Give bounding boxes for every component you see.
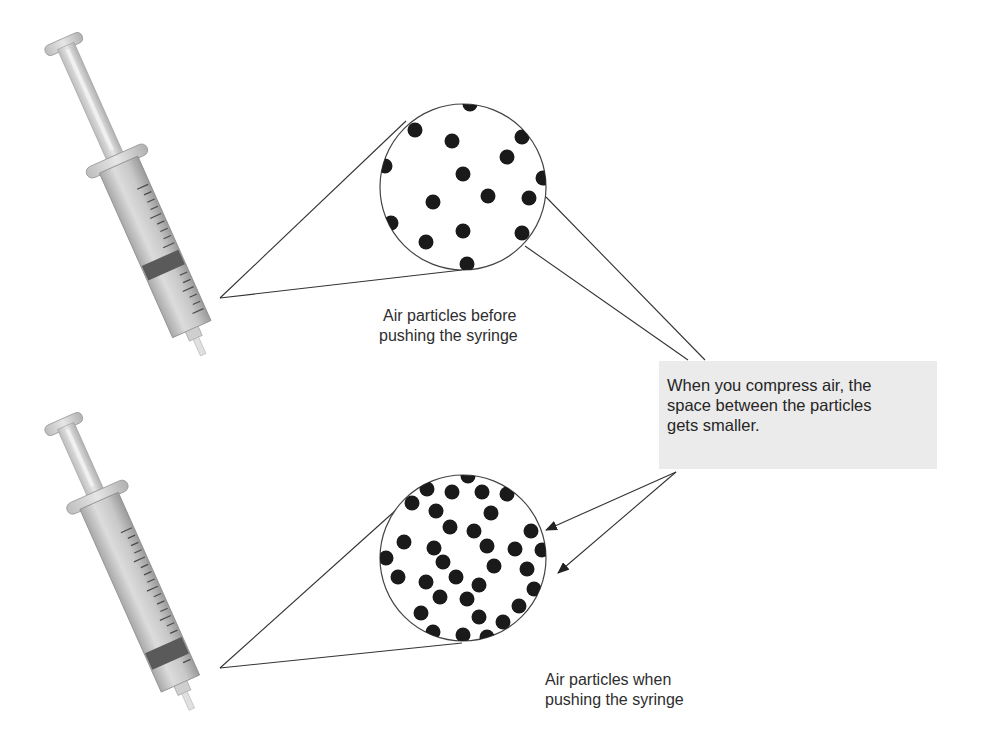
air-particle <box>480 539 495 554</box>
air-particle <box>481 189 496 204</box>
air-particle <box>378 159 393 174</box>
air-particle <box>508 542 523 557</box>
air-particle <box>515 130 530 145</box>
explanation-callout: When you compress air, the space between… <box>659 361 937 469</box>
air-particle <box>419 575 434 590</box>
air-particle <box>472 610 487 625</box>
air-particle <box>429 504 444 519</box>
caption-before-line-1: Air particles before <box>383 306 518 326</box>
air-particle <box>515 226 530 241</box>
air-particle <box>391 570 406 585</box>
air-particle <box>480 630 495 645</box>
air-particle <box>524 524 539 539</box>
air-particle <box>408 123 423 138</box>
air-particle <box>436 555 451 570</box>
air-particle <box>535 543 550 558</box>
callout-line-2: space between the particles <box>667 395 929 415</box>
syringe-bottom <box>32 405 222 722</box>
air-particle <box>500 487 515 502</box>
air-particle <box>445 134 460 149</box>
air-particle <box>405 496 420 511</box>
air-particle <box>460 592 475 607</box>
callout-line-1: When you compress air, the <box>667 375 929 395</box>
particle-circle-compressed <box>379 469 550 645</box>
air-particle <box>433 590 448 605</box>
caption-compressed-line-1: Air particles when <box>545 670 684 690</box>
caption-before-line-2: pushing the syringe <box>379 326 518 346</box>
callout-line-3: gets smaller. <box>667 415 929 435</box>
air-particle <box>456 224 471 239</box>
syringe-top <box>32 25 233 368</box>
air-particle <box>496 615 511 630</box>
caption-compressed: Air particles when pushing the syringe <box>545 670 684 710</box>
air-particle <box>467 524 482 539</box>
caption-before: Air particles before pushing the syringe <box>383 306 518 346</box>
air-particle <box>420 482 435 497</box>
air-particle <box>475 485 490 500</box>
air-particle <box>414 606 429 621</box>
air-particle <box>527 582 542 597</box>
air-particle <box>443 520 458 535</box>
air-particle <box>419 235 434 250</box>
air-particle <box>397 535 412 550</box>
air-particle <box>522 191 537 206</box>
air-particle <box>484 506 499 521</box>
air-particle <box>536 171 551 186</box>
air-particle <box>520 562 535 577</box>
caption-compressed-line-2: pushing the syringe <box>545 690 684 710</box>
air-particle <box>512 599 527 614</box>
air-particle <box>461 469 476 484</box>
air-particle <box>379 551 394 566</box>
air-particle <box>456 628 471 643</box>
air-particle <box>456 167 471 182</box>
air-particle <box>500 150 515 165</box>
air-particle <box>487 559 502 574</box>
air-particle <box>427 541 442 556</box>
air-particle <box>426 195 441 210</box>
air-particle <box>460 257 475 272</box>
air-particle <box>445 485 460 500</box>
air-particle <box>472 578 487 593</box>
air-particle <box>449 570 464 585</box>
callout-arrows <box>546 472 676 573</box>
